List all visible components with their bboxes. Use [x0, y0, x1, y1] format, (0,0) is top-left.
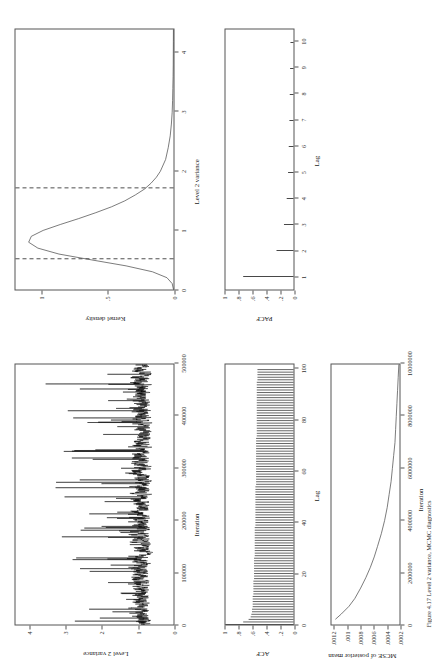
x-tick	[174, 519, 178, 520]
x-tick-label: 20	[299, 571, 306, 577]
x-tick-label: 7	[299, 118, 306, 121]
y-tick	[101, 625, 102, 629]
density-x-label: Level 2 variance	[192, 159, 199, 204]
x-tick	[294, 419, 298, 420]
y-tick	[347, 625, 348, 629]
x-tick	[294, 145, 298, 146]
y-tick	[224, 625, 225, 629]
figure-caption: Figure 4.17 Level 2 variance, MCMC diagn…	[424, 500, 431, 627]
y-tick	[360, 625, 361, 629]
mcse-series	[331, 364, 399, 624]
x-tick	[174, 229, 178, 230]
x-tick	[294, 40, 298, 41]
x-tick-label: 200000	[179, 511, 186, 530]
y-tick-label: .0004	[383, 631, 390, 645]
y-tick	[266, 625, 267, 629]
x-tick	[400, 414, 404, 415]
x-tick-label: 1	[179, 229, 186, 232]
x-tick-label: 8	[299, 92, 306, 95]
mcse-plot-box	[330, 363, 400, 625]
pacf-x-label: Lag	[312, 155, 319, 166]
acf-panel: 0.2.4.6.81 020406080100 Lag ACF	[216, 336, 324, 671]
y-tick	[107, 290, 108, 294]
x-tick	[174, 362, 178, 363]
density-series	[15, 29, 173, 289]
density-plot-box	[14, 28, 174, 290]
y-tick-label: .0006	[370, 631, 377, 645]
x-tick-label: 0	[179, 623, 186, 626]
y-tick	[65, 625, 66, 629]
x-tick-label: 2	[179, 169, 186, 172]
x-tick	[174, 170, 178, 171]
x-tick-label: 4	[299, 197, 306, 200]
x-tick-label: 4000000	[405, 509, 412, 531]
trace-y-label: Level 2 variance	[83, 650, 128, 657]
y-tick	[280, 290, 281, 294]
x-tick	[294, 250, 298, 251]
y-tick	[174, 290, 175, 294]
y-tick	[252, 625, 253, 629]
x-tick	[400, 519, 404, 520]
x-tick	[294, 367, 298, 368]
x-tick-label: 0	[405, 623, 412, 626]
x-tick	[174, 414, 178, 415]
x-tick-label: 100	[299, 364, 306, 373]
y-tick	[174, 625, 175, 629]
x-tick	[174, 467, 178, 468]
x-tick	[294, 66, 298, 67]
x-tick-label: 500000	[179, 354, 186, 373]
y-tick-label: .8	[235, 631, 242, 636]
y-tick-label: 0	[291, 296, 298, 299]
y-tick-label: 0	[291, 631, 298, 634]
y-tick	[333, 625, 334, 629]
x-tick	[294, 93, 298, 94]
x-tick-label: 10000000	[405, 351, 412, 376]
x-tick-label: 10	[299, 38, 306, 44]
y-tick	[138, 625, 139, 629]
y-tick-label: .2	[277, 631, 284, 636]
x-tick-label: 60	[299, 468, 306, 474]
y-tick-label: .001	[343, 631, 350, 642]
y-tick	[387, 625, 388, 629]
y-tick	[280, 625, 281, 629]
y-tick-label: .2	[277, 296, 284, 301]
y-tick-label: 1	[37, 296, 44, 299]
y-tick-label: .0008	[357, 631, 364, 645]
x-tick-label: 8000000	[405, 405, 412, 427]
acf-y-label: ACF	[256, 650, 269, 657]
y-tick-label: 1	[221, 296, 228, 299]
x-tick	[294, 573, 298, 574]
x-tick-label: 400000	[179, 406, 186, 425]
x-tick-label: 40	[299, 519, 306, 525]
x-tick-label: 9	[299, 66, 306, 69]
y-tick-label: 3	[61, 631, 68, 634]
y-tick	[373, 625, 374, 629]
y-tick-label: .4	[263, 296, 270, 301]
acf-plot-box	[224, 363, 294, 625]
x-tick-label: 3	[179, 110, 186, 113]
mcse-y-label: MCSE of posterior mean	[328, 652, 396, 659]
trace-plot-box	[14, 363, 174, 625]
y-tick-label: 2	[98, 631, 105, 634]
x-tick	[294, 521, 298, 522]
acf-series	[225, 364, 293, 624]
density-panel: 0.51 01234 Level 2 variance Kernel densi…	[0, 0, 216, 336]
x-tick	[294, 171, 298, 172]
x-tick	[174, 289, 178, 290]
y-tick	[266, 290, 267, 294]
y-tick	[224, 290, 225, 294]
x-tick	[174, 624, 178, 625]
x-tick	[400, 572, 404, 573]
x-tick-label: 100000	[179, 563, 186, 582]
x-tick	[174, 110, 178, 111]
x-tick	[294, 276, 298, 277]
y-tick	[252, 290, 253, 294]
trace-x-label: Iteration	[192, 513, 199, 536]
y-tick-label: 0	[171, 296, 178, 299]
trace-series	[15, 364, 173, 624]
pacf-panel: 0.2.4.6.81 12345678910 Lag PACF	[216, 0, 324, 336]
x-tick-label: 5	[299, 171, 306, 174]
y-tick-label: 1	[134, 631, 141, 634]
y-tick	[400, 625, 401, 629]
y-tick-label: .6	[249, 631, 256, 636]
